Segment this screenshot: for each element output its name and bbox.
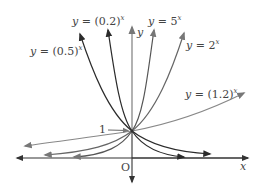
label-exp: x [215,38,219,46]
label-exp: x [234,87,238,95]
label-fifth-pow-x: y = (0.2)x [72,15,124,27]
x-axis-label: x [240,161,246,172]
x-axis-label-text: x [240,160,246,173]
label-onepointtwo-pow-x: y = (1.2)x [185,88,237,100]
origin-label: O [121,162,130,173]
label-two-pow-x: y = 2x [186,39,219,51]
label-eq: = (0.2) [78,15,120,28]
label-five-pow-x: y = 5x [148,15,181,27]
intercept-pointer [108,130,128,131]
label-eq: = 5 [154,15,177,28]
y-axis-label: y [137,27,143,38]
label-eq: = (1.2) [191,88,233,101]
curve-fifth-pow-x [108,30,184,157]
intercept-point [130,129,133,132]
y-axis-label-text: y [137,26,143,39]
intercept-label: 1 [99,124,106,135]
label-eq: = (0.5) [36,45,78,58]
label-exp: x [79,44,83,52]
label-eq: = 2 [192,39,215,52]
label-half-pow-x: y = (0.5)x [30,45,82,57]
label-exp: x [177,14,181,22]
label-exp: x [121,14,125,22]
